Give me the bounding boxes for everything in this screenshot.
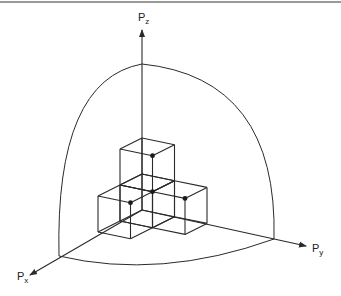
point-dot <box>150 189 155 194</box>
svg-text:Pz: Pz <box>138 11 149 26</box>
octant-diagram: Pz Py Px <box>0 0 341 296</box>
cube-2 <box>153 181 208 235</box>
cube-stack <box>98 138 207 239</box>
point-dot <box>150 153 155 158</box>
axis-label-px: Px <box>17 270 28 285</box>
svg-text:Py: Py <box>312 242 323 257</box>
coordinate-axes <box>30 30 306 275</box>
arc-xy <box>59 239 274 265</box>
cube-3 <box>120 138 175 192</box>
axis-label-py: Py <box>312 242 323 257</box>
axis-label-pz: Pz <box>138 11 149 26</box>
axis-px <box>30 210 142 275</box>
point-dot <box>128 200 133 205</box>
sphere-octant-arcs <box>59 64 274 265</box>
point-dot <box>183 196 188 201</box>
svg-text:Px: Px <box>17 270 28 285</box>
arc-xz <box>59 64 142 256</box>
cube-0 <box>120 174 175 228</box>
